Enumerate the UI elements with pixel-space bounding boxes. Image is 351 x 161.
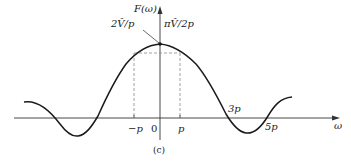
tick-label-zero: 0 (151, 124, 157, 134)
tick-label-3p: 3p (228, 104, 241, 114)
peak-label-right: πV̂/2p (164, 19, 194, 29)
tick-label-neg-p: −p (128, 124, 143, 134)
y-axis-label: F(ω) (134, 4, 157, 14)
tick-label-5p: 5p (265, 122, 278, 132)
figure-caption: (c) (153, 146, 165, 155)
dashed-guides (134, 53, 180, 118)
sinc-curve (24, 44, 292, 136)
peak-label-left: 2V̂/p (111, 19, 134, 29)
tick-label-p: p (178, 124, 184, 134)
y-axis-arrow-icon (158, 6, 163, 14)
peak-leader-line (143, 30, 159, 43)
x-axis-label: ω (334, 121, 342, 131)
figure-canvas: F(ω) 2V̂/p πV̂/2p −p 0 p 3p 5p ω (c) (0, 0, 351, 161)
